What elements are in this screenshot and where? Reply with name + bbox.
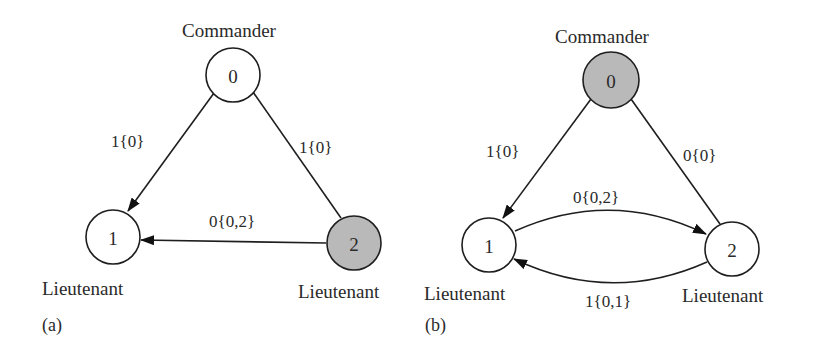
edge-label-b-2-to-1: 1{0,1} bbox=[585, 292, 631, 311]
edge-a-2-to-1 bbox=[141, 240, 326, 243]
edge-b-2-to-1 bbox=[514, 259, 707, 283]
node-id: 1 bbox=[108, 228, 118, 249]
panel-label-b: (b) bbox=[425, 315, 446, 336]
role-label-lieutenant: Lieutenant bbox=[42, 278, 124, 299]
edge-b-1-to-2 bbox=[515, 210, 706, 234]
byzantine-generals-diagram: 1{0} 1{0} 0{0,2} 0 1 2 Commander Lieuten… bbox=[0, 0, 815, 362]
role-label-commander: Commander bbox=[182, 20, 277, 41]
panel-b: 1{0} 0{0} 0{0,2} 1{0,1} 0 1 2 Commander … bbox=[424, 26, 764, 336]
node-id: 2 bbox=[349, 234, 359, 255]
node-a-2-faulty: 2 bbox=[327, 216, 381, 270]
panel-label-a: (a) bbox=[42, 315, 62, 336]
node-id: 2 bbox=[727, 240, 737, 261]
edge-a-0-to-1 bbox=[128, 93, 214, 211]
role-label-lieutenant: Lieutenant bbox=[424, 283, 506, 304]
role-label-commander: Commander bbox=[555, 26, 650, 47]
edge-label-a-0-to-1: 1{0} bbox=[111, 132, 144, 151]
node-id: 0 bbox=[606, 71, 616, 92]
node-b-0-faulty: 0 bbox=[583, 52, 639, 108]
edge-label-a-2-to-1: 0{0,2} bbox=[209, 212, 255, 231]
node-a-1: 1 bbox=[86, 210, 140, 264]
edge-label-a-0-to-2: 1{0} bbox=[299, 138, 332, 157]
node-b-1: 1 bbox=[462, 218, 516, 272]
panel-a: 1{0} 1{0} 0{0,2} 0 1 2 Commander Lieuten… bbox=[42, 20, 381, 336]
edge-label-b-1-to-2: 0{0,2} bbox=[573, 188, 619, 207]
node-b-2: 2 bbox=[705, 222, 759, 276]
edge-label-b-0-to-2: 0{0} bbox=[683, 146, 716, 165]
edge-label-b-0-to-1: 1{0} bbox=[486, 142, 519, 161]
node-a-0: 0 bbox=[206, 48, 260, 102]
role-label-lieutenant: Lieutenant bbox=[682, 285, 764, 306]
node-id: 1 bbox=[484, 236, 494, 257]
node-id: 0 bbox=[228, 66, 238, 87]
role-label-lieutenant: Lieutenant bbox=[298, 281, 380, 302]
